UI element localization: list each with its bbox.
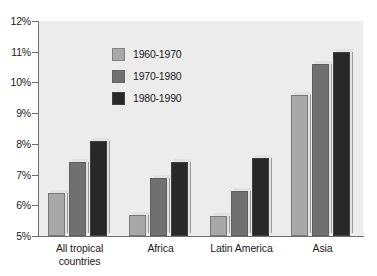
x-axis-label-line: Asia <box>273 242 373 255</box>
bar-top-edge <box>294 92 311 95</box>
bar <box>69 162 86 236</box>
bar-top-edge <box>174 159 191 162</box>
bar <box>231 191 248 236</box>
y-axis-tick <box>32 113 39 114</box>
y-axis-tick-label: 8% <box>1 139 31 150</box>
bar <box>90 141 107 236</box>
bar-face <box>231 191 248 236</box>
bar <box>129 215 146 237</box>
y-axis-tick-label: 5% <box>1 231 31 242</box>
bar-face <box>129 215 146 237</box>
bar-face <box>150 178 167 236</box>
bar-top-edge <box>213 213 230 216</box>
bar-top-edge <box>72 159 89 162</box>
bar <box>171 162 188 236</box>
bar-highlight <box>146 212 149 234</box>
bar-highlight <box>308 92 311 233</box>
chart-legend: 1960-19701970-19801980-1990 <box>112 45 181 111</box>
bar-face <box>333 52 350 236</box>
y-axis-tick <box>32 144 39 145</box>
bar-highlight <box>350 49 353 233</box>
bar-face <box>69 162 86 236</box>
y-axis-tick-label: 11% <box>1 47 31 58</box>
legend-item: 1980-1990 <box>112 89 181 107</box>
x-axis-category-label: Asia <box>273 242 373 255</box>
y-axis-labels: 12%11%10%9%8%7%6%5% <box>0 0 31 276</box>
x-axis-label-line: countries <box>30 255 130 268</box>
bar-top-edge <box>153 175 170 178</box>
bar-top-edge <box>93 138 110 141</box>
bar-top-edge <box>51 190 68 193</box>
bar-highlight <box>86 159 89 233</box>
bar-highlight <box>269 155 272 233</box>
y-axis-tick-label: 9% <box>1 108 31 119</box>
bar-face <box>210 216 227 236</box>
bar-face <box>291 95 308 236</box>
bar <box>150 178 167 236</box>
bar-top-edge <box>336 49 353 52</box>
bar-highlight <box>167 175 170 233</box>
y-axis-tick-label: 7% <box>1 170 31 181</box>
y-axis-tick-label: 12% <box>1 16 31 27</box>
y-axis-tick <box>32 175 39 176</box>
bar-face <box>48 193 65 236</box>
bar-face <box>171 162 188 236</box>
bar-top-edge <box>255 155 272 158</box>
y-axis-tick <box>32 82 39 83</box>
x-axis-line <box>38 236 364 237</box>
bar-top-edge <box>315 61 332 64</box>
legend-swatch-icon <box>112 92 125 105</box>
bar-highlight <box>248 188 251 233</box>
bar-top-edge <box>234 188 251 191</box>
legend-swatch-icon <box>112 48 125 61</box>
bar-chart: 12%11%10%9%8%7%6%5% All tropicalcountrie… <box>0 0 377 276</box>
bar-face <box>252 158 269 236</box>
y-axis-tick-label: 10% <box>1 77 31 88</box>
bar-highlight <box>329 61 332 233</box>
bar-highlight <box>65 190 68 233</box>
bar-highlight <box>188 159 191 233</box>
legend-item: 1960-1970 <box>112 45 181 63</box>
legend-label: 1980-1990 <box>133 92 181 104</box>
legend-item: 1970-1980 <box>112 67 181 85</box>
bar-face <box>312 64 329 236</box>
y-axis-tick <box>32 236 39 237</box>
legend-label: 1960-1970 <box>133 48 181 60</box>
bar-top-edge <box>132 212 149 215</box>
bar <box>210 216 227 236</box>
y-axis-tick <box>32 205 39 206</box>
bar-highlight <box>107 138 110 233</box>
bar <box>312 64 329 236</box>
y-axis-tick <box>32 21 39 22</box>
bar <box>252 158 269 236</box>
bar <box>291 95 308 236</box>
legend-swatch-icon <box>112 70 125 83</box>
bar <box>48 193 65 236</box>
y-axis-tick <box>32 52 39 53</box>
bar <box>333 52 350 236</box>
y-axis-tick-label: 6% <box>1 200 31 211</box>
legend-label: 1970-1980 <box>133 70 181 82</box>
bar-face <box>90 141 107 236</box>
